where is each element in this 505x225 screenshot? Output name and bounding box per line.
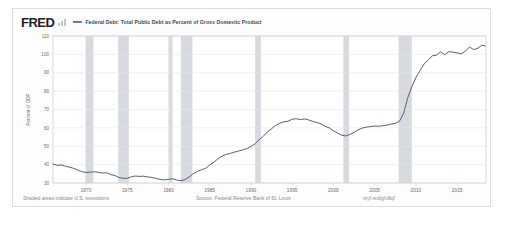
y-tick-label: 60 — [44, 126, 50, 131]
x-tick-label: 2005 — [369, 188, 380, 193]
y-axis-title: Percent of GDP — [26, 93, 31, 125]
x-tick-label: 2015 — [452, 188, 463, 193]
y-tick-label: 90 — [44, 70, 50, 75]
x-tick-label: 1995 — [287, 188, 298, 193]
permalink-note[interactable]: myf.red/g/n8qf — [363, 195, 395, 201]
x-tick-label: 2010 — [411, 188, 422, 193]
y-tick-label: 70 — [44, 107, 50, 112]
y-tick-label: 110 — [42, 34, 50, 39]
plot-area[interactable]: 3040506070809010011019701975198019851990… — [13, 9, 492, 208]
x-tick-label: 2000 — [328, 188, 339, 193]
x-tick-label: 1970 — [81, 188, 92, 193]
source-note: Source: Federal Reserve Bank of St. Loui… — [196, 195, 291, 201]
chart-card: FRED Federal Debt: Total Public Debt as … — [12, 8, 491, 207]
y-tick-label: 30 — [44, 181, 50, 186]
recession-note: Shaded areas indicate U.S. recessions — [23, 195, 109, 201]
y-tick-label: 50 — [44, 144, 50, 149]
y-tick-label: 100 — [41, 52, 49, 57]
y-tick-label: 80 — [44, 89, 50, 94]
x-tick-label: 1975 — [122, 188, 133, 193]
y-tick-label: 40 — [44, 162, 50, 167]
line-chart: 3040506070809010011019701975198019851990… — [13, 9, 492, 208]
x-tick-label: 1990 — [246, 188, 257, 193]
x-tick-label: 1985 — [204, 188, 215, 193]
x-tick-label: 1980 — [163, 188, 174, 193]
